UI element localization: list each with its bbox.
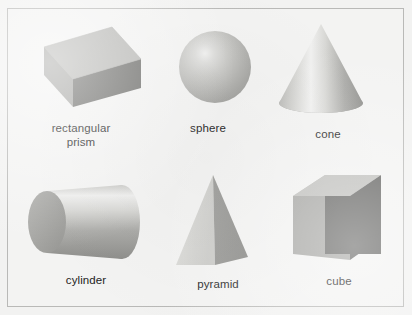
shape-label-rectangular-prism: rectangular prism: [16, 121, 146, 149]
sphere-icon: [148, 19, 268, 114]
shape-label-cube: cube: [280, 274, 398, 288]
cone-icon: [263, 19, 393, 124]
shape-cell-pyramid[interactable]: pyramid: [158, 169, 278, 304]
shape-cell-sphere[interactable]: sphere: [148, 19, 268, 164]
shape-grid: rectangular prism sphere: [8, 9, 403, 306]
diagram-frame: rectangular prism sphere: [7, 8, 404, 307]
cube-icon: [280, 169, 398, 269]
worksheet-page: rectangular prism sphere: [0, 0, 412, 315]
rectangular-prism-icon: [16, 19, 146, 114]
shape-label-cylinder: cylinder: [16, 273, 156, 287]
shape-label-cone: cone: [263, 127, 393, 141]
pyramid-icon: [158, 169, 278, 274]
shape-cell-cylinder[interactable]: cylinder: [16, 169, 156, 304]
shape-label-sphere: sphere: [148, 121, 268, 135]
shape-label-pyramid: pyramid: [158, 277, 278, 291]
shape-cell-cube[interactable]: cube: [280, 169, 398, 304]
shape-cell-rectangular-prism[interactable]: rectangular prism: [16, 19, 146, 164]
cylinder-icon: [16, 169, 156, 269]
shape-cell-cone[interactable]: cone: [263, 19, 393, 164]
